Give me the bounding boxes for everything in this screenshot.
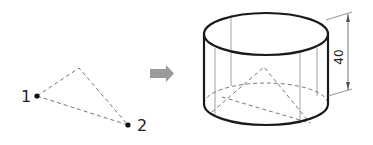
arrowhead-top-icon <box>346 14 350 22</box>
source-triangle: 1 2 <box>21 68 147 135</box>
bottom-back-arc <box>204 83 328 104</box>
inner-triangle <box>212 67 310 123</box>
inner-triangle-base <box>222 97 310 123</box>
triangle-edges <box>37 68 128 125</box>
bottom-front-arc <box>204 104 328 125</box>
dimension-value: 40 <box>332 49 346 64</box>
cylinder <box>204 13 328 125</box>
triangle-base <box>37 96 128 125</box>
arrowhead-bottom-icon <box>346 82 350 90</box>
height-dimension: 40 <box>326 12 352 96</box>
diagram-svg: 1 2 <box>0 0 373 145</box>
diagram-canvas: 1 2 <box>0 0 373 145</box>
point-1-marker <box>34 93 39 98</box>
top-ellipse <box>204 13 328 55</box>
transform-arrow-icon <box>150 65 174 82</box>
extension-line-bottom <box>328 89 352 96</box>
point-1-label: 1 <box>21 87 31 106</box>
point-2-marker <box>125 122 130 127</box>
point-2-label: 2 <box>137 116 147 135</box>
